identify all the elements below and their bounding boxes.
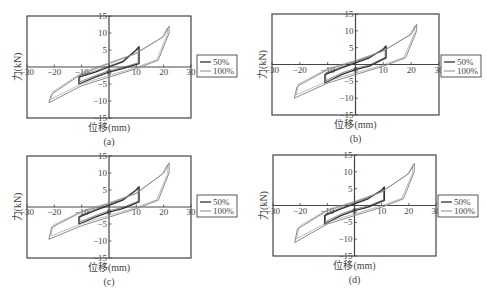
y-tick-label: 10	[345, 26, 355, 36]
y-tick-label: −10	[93, 96, 108, 106]
legend: 50%100%	[197, 195, 237, 217]
y-tick-label: 15	[344, 150, 354, 160]
x-axis-label: 位移(mm)	[333, 259, 375, 272]
chart-panel-a: −30−20−100102030−15−10−551015力(kN)位移(mm)…	[11, 11, 237, 148]
y-tick-label: −10	[339, 93, 354, 103]
y-axis-label: 力(kN)	[257, 191, 270, 220]
panel-caption: (a)	[103, 136, 114, 148]
chart-panel-b: −30−20−100102030−15−10−551015力(kN)位移(mm)…	[256, 9, 481, 145]
y-tick-label: 10	[98, 168, 108, 178]
legend-label: 100%	[213, 66, 235, 76]
x-axis-label: 位移(mm)	[334, 118, 376, 131]
x-tick-label: 20	[404, 206, 414, 216]
x-tick-label: 30	[187, 67, 197, 77]
y-tick-label: 5	[103, 45, 108, 55]
x-tick-label: −20	[293, 206, 308, 216]
x-tick-label: 20	[407, 65, 417, 75]
x-tick-label: 30	[187, 207, 197, 217]
x-tick-label: −20	[47, 207, 62, 217]
legend-label: 100%	[454, 206, 476, 216]
legend: 50%100%	[197, 55, 237, 77]
y-tick-label: 5	[103, 185, 108, 195]
y-tick-label: 5	[348, 184, 353, 194]
y-tick-label: 15	[98, 151, 108, 161]
y-axis-label: 力(kN)	[11, 53, 24, 82]
panel-caption: (b)	[350, 133, 362, 145]
y-tick-label: −10	[93, 236, 108, 246]
legend: 50%100%	[441, 55, 481, 77]
x-tick-label: 20	[159, 67, 169, 77]
panel-caption: (c)	[103, 276, 114, 288]
chart-panel-d: −30−20−100102030−15−10−551015力(kN)位移(mm)…	[257, 150, 478, 286]
chart-panel-c: −30−20−100102030−15−10−551015力(kN)位移(mm)…	[11, 151, 237, 288]
y-tick-label: −10	[338, 234, 353, 244]
y-tick-label: 15	[98, 11, 108, 21]
x-tick-label: −20	[293, 65, 308, 75]
hysteresis-figure: −30−20−100102030−15−10−551015力(kN)位移(mm)…	[0, 0, 487, 298]
y-tick-label: 5	[349, 43, 354, 53]
y-axis-label: 力(kN)	[11, 193, 24, 222]
x-axis-label: 位移(mm)	[88, 121, 130, 134]
panel-caption: (d)	[349, 274, 361, 286]
legend-label: 100%	[213, 206, 235, 216]
x-tick-label: −20	[47, 67, 62, 77]
y-tick-label: 15	[345, 9, 355, 19]
x-tick-label: 20	[159, 207, 169, 217]
y-axis-label: 力(kN)	[256, 50, 269, 79]
legend: 50%100%	[438, 195, 478, 217]
legend-label: 100%	[457, 66, 479, 76]
y-tick-label: 10	[98, 28, 108, 38]
x-axis-label: 位移(mm)	[88, 261, 130, 274]
y-tick-label: 10	[344, 167, 354, 177]
